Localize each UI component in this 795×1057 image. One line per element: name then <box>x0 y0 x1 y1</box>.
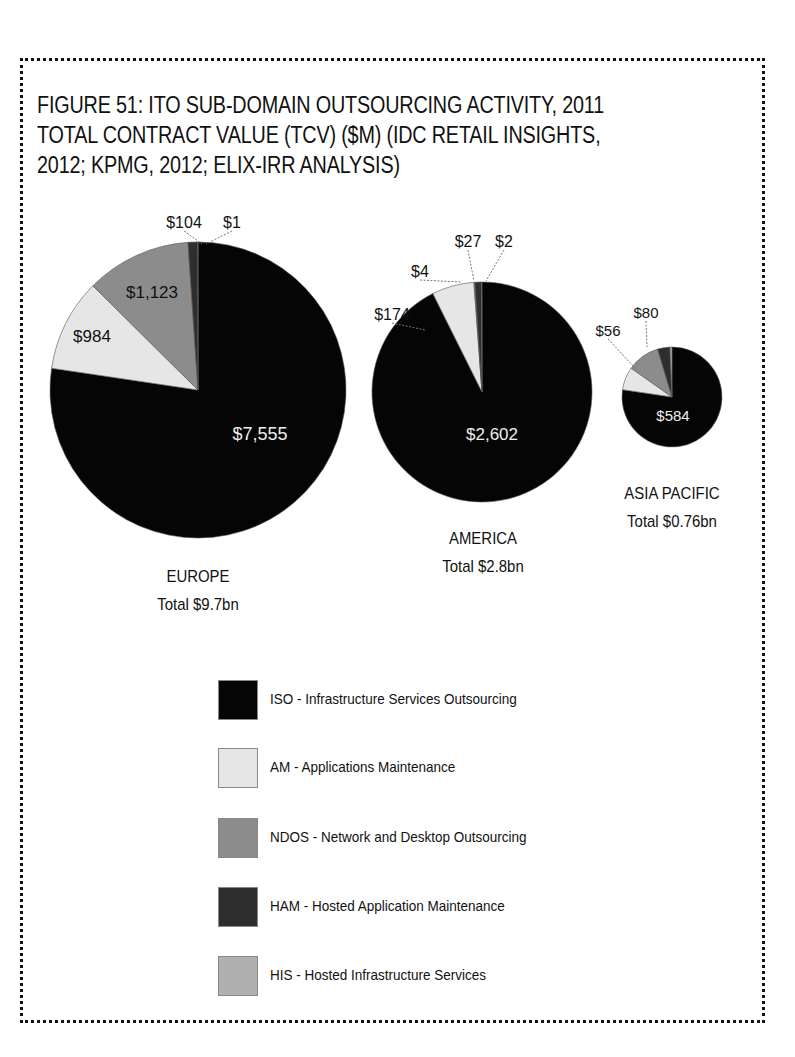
region-name: AMERICA <box>395 525 571 553</box>
swatch-his-icon <box>218 956 258 996</box>
pie-asia-pacific: $584$56$80 <box>595 304 722 447</box>
legend-item-ndos: NDOS - Network and Desktop Outsourcing <box>218 818 638 860</box>
legend-item-his: HIS - Hosted Infrastructure Services <box>218 956 638 998</box>
slice-value-label: $2 <box>495 233 513 250</box>
legend-label: AM - Applications Maintenance <box>270 758 455 775</box>
slice-value-label: $27 <box>455 233 482 250</box>
swatch-ham-icon <box>218 887 258 927</box>
slice-value-label: $7,555 <box>232 424 287 444</box>
slice-value-label: $56 <box>595 322 620 339</box>
leader-line <box>468 250 474 281</box>
swatch-ndos-icon <box>218 818 258 858</box>
pie-america: $2,602$174$4$27$2 <box>372 233 592 502</box>
leader-line <box>420 280 461 282</box>
pie-europe: $7,555$984$1,123$104$1 <box>50 214 346 538</box>
legend-label: HAM - Hosted Application Maintenance <box>270 897 505 914</box>
leader-line <box>608 339 637 370</box>
legend-label: ISO - Infrastructure Services Outsourcin… <box>270 690 517 707</box>
region-name: EUROPE <box>110 563 286 591</box>
legend-item-iso: ISO - Infrastructure Services Outsourcin… <box>218 680 638 722</box>
swatch-iso-icon <box>218 680 258 720</box>
leader-line <box>206 231 232 244</box>
slice-value-label: $1,123 <box>126 283 178 302</box>
legend-item-ham: HAM - Hosted Application Maintenance <box>218 887 638 929</box>
legend-label: NDOS - Network and Desktop Outsourcing <box>270 828 527 845</box>
region-label-america: AMERICA Total $2.8bn <box>395 525 571 581</box>
slice-value-label: $104 <box>166 214 202 231</box>
region-total: Total $9.7bn <box>110 591 286 619</box>
leader-line <box>486 250 504 281</box>
slice-value-label: $80 <box>633 304 658 321</box>
region-name: ASIA PACIFIC <box>584 480 760 508</box>
slice-value-label: $174 <box>374 306 410 323</box>
region-label-asia-pacific: ASIA PACIFIC Total $0.76bn <box>584 480 760 536</box>
leader-line <box>646 321 647 347</box>
slice-value-label: $584 <box>656 407 689 424</box>
slice-value-label: $1 <box>223 214 241 231</box>
region-total: Total $2.8bn <box>395 553 571 581</box>
swatch-am-icon <box>218 748 258 788</box>
region-label-europe: EUROPE Total $9.7bn <box>110 563 286 619</box>
region-total: Total $0.76bn <box>584 508 760 536</box>
slice-value-label: $984 <box>73 327 111 346</box>
slice-value-label: $4 <box>411 263 429 280</box>
legend-label: HIS - Hosted Infrastructure Services <box>270 966 486 983</box>
slice-value-label: $2,602 <box>466 425 518 444</box>
legend-item-am: AM - Applications Maintenance <box>218 748 638 790</box>
